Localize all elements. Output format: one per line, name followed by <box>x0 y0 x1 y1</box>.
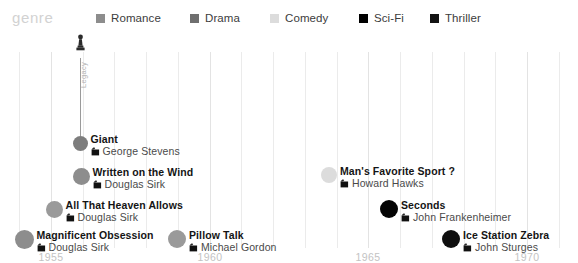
legend-item-romance[interactable]: Romance <box>96 11 161 25</box>
legend-item-label: Sci-Fi <box>374 12 404 24</box>
film-title: All That Heaven Allows <box>66 199 183 211</box>
film-label-pillow-talk[interactable]: Pillow TalkMichael Gordon <box>189 229 277 253</box>
clapperboard-icon <box>66 213 75 222</box>
legend-swatch-icon <box>359 14 368 23</box>
film-label-giant[interactable]: GiantGeorge Stevens <box>91 133 180 157</box>
film-director: Michael Gordon <box>201 241 277 253</box>
film-director: George Stevens <box>103 145 180 157</box>
oscar-statuette-icon <box>74 34 87 64</box>
film-director-line: Howard Hawks <box>340 177 455 189</box>
clapperboard-icon <box>189 243 198 252</box>
film-director-line: Douglas Sirk <box>66 211 183 223</box>
film-title: Seconds <box>401 199 511 211</box>
film-director-line: Douglas Sirk <box>93 178 194 190</box>
film-label-ice-station-zebra[interactable]: Ice Station ZebraJohn Sturges <box>463 229 549 253</box>
plot-area: 1955196019651970 Legacy GiantGeorge Stev… <box>0 30 578 255</box>
film-director: Douglas Sirk <box>49 241 110 253</box>
legend-item-drama[interactable]: Drama <box>190 11 240 25</box>
legend-item-comedy[interactable]: Comedy <box>270 11 328 25</box>
film-dot-magnificent-obsession[interactable] <box>15 230 34 249</box>
film-director-line: Michael Gordon <box>189 241 277 253</box>
legend-item-sci-fi[interactable]: Sci-Fi <box>359 11 404 25</box>
legend-title: genre <box>12 9 53 26</box>
legend-item-thriller[interactable]: Thriller <box>430 11 481 25</box>
film-director: Howard Hawks <box>352 177 424 189</box>
film-dot-pillow-talk[interactable] <box>168 230 186 248</box>
clapperboard-icon <box>37 243 46 252</box>
legend-swatch-icon <box>430 14 439 23</box>
oscar-vertical-label: Legacy <box>79 62 88 88</box>
film-label-man-s-favorite-sport[interactable]: Man's Favorite Sport ?Howard Hawks <box>340 165 455 189</box>
film-director: John Frankenheimer <box>413 211 511 223</box>
film-dot-ice-station-zebra[interactable] <box>442 230 460 248</box>
film-director: John Sturges <box>475 241 538 253</box>
film-label-seconds[interactable]: SecondsJohn Frankenheimer <box>401 199 511 223</box>
film-director: Douglas Sirk <box>105 178 166 190</box>
film-label-magnificent-obsession[interactable]: Magnificent ObsessionDouglas Sirk <box>37 229 154 253</box>
film-director-line: Douglas Sirk <box>37 241 154 253</box>
film-director: Douglas Sirk <box>78 211 139 223</box>
clapperboard-icon <box>463 243 472 252</box>
film-dot-seconds[interactable] <box>380 200 398 218</box>
film-director-line: George Stevens <box>91 145 180 157</box>
film-dot-all-that-heaven-allows[interactable] <box>46 201 63 218</box>
film-label-written-on-the-wind[interactable]: Written on the WindDouglas Sirk <box>93 166 194 190</box>
legend-item-label: Comedy <box>285 12 328 24</box>
film-title: Written on the Wind <box>93 166 194 178</box>
film-dot-giant[interactable] <box>73 136 88 151</box>
clapperboard-icon <box>93 180 102 189</box>
legend-item-label: Drama <box>205 12 240 24</box>
film-director-line: John Frankenheimer <box>401 211 511 223</box>
legend-swatch-icon <box>96 14 105 23</box>
clapperboard-icon <box>91 147 100 156</box>
legend: genre RomanceDramaComedySci-FiThriller <box>0 8 578 30</box>
legend-swatch-icon <box>270 14 279 23</box>
film-title: Man's Favorite Sport ? <box>340 165 455 177</box>
film-label-all-that-heaven-allows[interactable]: All That Heaven AllowsDouglas Sirk <box>66 199 183 223</box>
film-title: Pillow Talk <box>189 229 277 241</box>
film-title: Ice Station Zebra <box>463 229 549 241</box>
legend-swatch-icon <box>190 14 199 23</box>
film-title: Giant <box>91 133 180 145</box>
film-title: Magnificent Obsession <box>37 229 154 241</box>
film-director-line: John Sturges <box>463 241 549 253</box>
film-dot-written-on-the-wind[interactable] <box>73 168 90 185</box>
legend-item-label: Thriller <box>445 12 481 24</box>
clapperboard-icon <box>401 213 410 222</box>
clapperboard-icon <box>340 179 349 188</box>
legend-item-label: Romance <box>111 12 161 24</box>
film-dot-man-s-favorite-sport[interactable] <box>321 167 337 183</box>
